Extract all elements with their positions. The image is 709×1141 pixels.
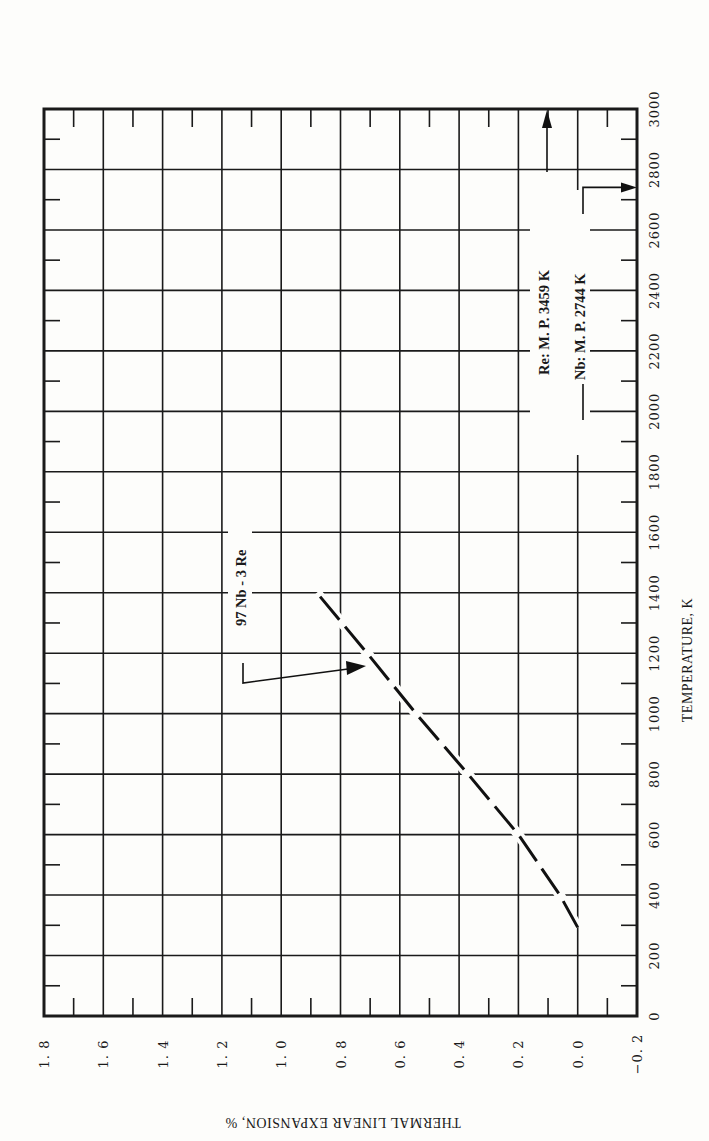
- temperature-tick-label: 1800: [647, 453, 662, 490]
- temperature-tick-label: 200: [647, 942, 662, 970]
- temperature-tick-label: 2400: [647, 272, 662, 309]
- arrow-icon: [346, 661, 366, 675]
- expansion-tick-label: 1. 4: [156, 1040, 171, 1069]
- temperature-tick-label: 600: [647, 821, 662, 849]
- temperature-tick-label: 2000: [647, 393, 662, 430]
- temperature-tick-label: 0: [647, 1011, 662, 1020]
- temperature-tick-label: 800: [647, 760, 662, 788]
- expansion-tick-label: 1. 2: [215, 1040, 230, 1069]
- series-label: 97 Nb - 3 Re: [233, 549, 249, 626]
- expansion-tick-label: 1. 0: [274, 1040, 289, 1069]
- arrow-right-icon: [621, 182, 637, 192]
- re-melting-point-label: Re: M. P. 3459 K: [536, 269, 552, 375]
- expansion-tick-label: 1. 6: [96, 1040, 111, 1069]
- label-backgrounds: [228, 190, 590, 625]
- temperature-tick-labels: 0200400600800100012001400160018002000220…: [647, 90, 662, 1020]
- y-axis-title: THERMAL LINEAR EXPANSION, %: [225, 1115, 461, 1130]
- temperature-tick-label: 1200: [647, 635, 662, 672]
- expansion-tick-label: 0. 0: [571, 1040, 586, 1069]
- series-leader-line: [243, 663, 348, 683]
- arrow-up-icon: [542, 110, 552, 128]
- expansion-tick-labels: −0. 20. 00. 20. 40. 60. 81. 01. 21. 41. …: [37, 1034, 645, 1075]
- temperature-tick-label: 1400: [647, 574, 662, 611]
- nb-melting-point-label: Nb: M. P. 2744 K: [572, 273, 588, 380]
- expansion-tick-label: −0. 2: [630, 1034, 645, 1075]
- temperature-tick-label: 1600: [647, 514, 662, 551]
- temperature-tick-label: 3000: [647, 90, 662, 127]
- expansion-tick-label: 0. 4: [452, 1040, 467, 1069]
- expansion-tick-label: 0. 8: [334, 1040, 349, 1069]
- chart: 97 Nb - 3 ReRe: M. P. 3459 KNb: M. P. 27…: [0, 0, 709, 1141]
- series-97nb-3re: [317, 593, 578, 928]
- expansion-tick-label: 0. 2: [511, 1040, 526, 1069]
- temperature-tick-label: 2800: [647, 151, 662, 188]
- temperature-tick-label: 400: [647, 881, 662, 909]
- expansion-tick-label: 1. 8: [37, 1040, 52, 1069]
- expansion-tick-label: 0. 6: [393, 1040, 408, 1069]
- temperature-tick-label: 2200: [647, 332, 662, 369]
- x-axis-title: TEMPERATURE, K: [680, 598, 695, 722]
- temperature-tick-label: 1000: [647, 695, 662, 732]
- temperature-tick-label: 2600: [647, 211, 662, 248]
- curve-halo: [317, 593, 578, 928]
